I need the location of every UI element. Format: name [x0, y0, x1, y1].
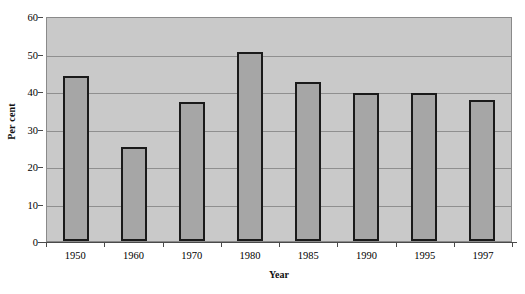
bar: [63, 76, 89, 241]
x-axis-tick-label: 1970: [163, 250, 221, 261]
x-tick-slot: [454, 242, 512, 248]
bar: [469, 100, 495, 241]
y-axis-tick-label: 10: [0, 199, 42, 210]
x-axis-tickmark: [512, 242, 513, 247]
x-axis-tick-label: 1985: [279, 250, 337, 261]
bar-slot: [337, 18, 395, 241]
y-axis-tickmark: [38, 205, 43, 206]
x-axis-tick-label: 1960: [104, 250, 162, 261]
bar: [179, 102, 205, 241]
x-axis-tickmark: [337, 242, 338, 247]
bar-series: [47, 18, 511, 241]
x-axis-tickmark: [454, 242, 455, 247]
y-axis-tickmark: [38, 92, 43, 93]
bar-slot: [221, 18, 279, 241]
x-axis-tickmarks: [46, 242, 512, 248]
y-axis-tick-label: 40: [0, 87, 42, 98]
x-tick-slot: [46, 242, 104, 248]
plot-area: [46, 17, 512, 242]
y-axis-tick-label: 20: [0, 162, 42, 173]
x-tick-slot: [337, 242, 395, 248]
x-tick-slot: [396, 242, 454, 248]
bar: [121, 147, 147, 241]
bar-slot: [47, 18, 105, 241]
y-axis-tickmark: [38, 167, 43, 168]
x-axis-tick-label: 1980: [221, 250, 279, 261]
bar: [353, 93, 379, 241]
x-axis-tickmark: [396, 242, 397, 247]
bar-slot: [279, 18, 337, 241]
x-axis-tick-label: 1997: [454, 250, 512, 261]
x-tick-slot: [163, 242, 221, 248]
y-axis-tickmark: [38, 130, 43, 131]
bar: [411, 93, 437, 241]
x-tick-slot: [104, 242, 162, 248]
bar-slot: [163, 18, 221, 241]
x-axis-title: Year: [46, 269, 512, 280]
x-axis-tickmark: [279, 242, 280, 247]
x-axis-tick-label: 1995: [396, 250, 454, 261]
bar-chart: Per cent 0102030405060 19501960197019801…: [0, 0, 525, 294]
y-axis-tick-label: 60: [0, 12, 42, 23]
bar-slot: [453, 18, 511, 241]
x-axis-tickmark: [221, 242, 222, 247]
bar-slot: [105, 18, 163, 241]
x-tick-slot: [221, 242, 279, 248]
bar: [295, 82, 321, 241]
x-axis-tick-label: 1990: [337, 250, 395, 261]
x-axis-tickmark: [104, 242, 105, 247]
x-tick-slot: [279, 242, 337, 248]
y-axis-tickmark: [38, 55, 43, 56]
x-axis-tick-labels: 19501960197019801985199019951997: [46, 250, 512, 261]
y-axis-tick-label: 30: [0, 124, 42, 135]
bar-slot: [395, 18, 453, 241]
y-axis-tickmark: [38, 17, 43, 18]
x-axis-tickmark: [46, 242, 47, 247]
y-axis-tick-label: 50: [0, 49, 42, 60]
y-axis-tick-labels: 0102030405060: [0, 0, 42, 294]
x-axis-tick-label: 1950: [46, 250, 104, 261]
bar: [237, 52, 263, 241]
y-axis-tick-label: 0: [0, 237, 42, 248]
x-axis-tickmark: [163, 242, 164, 247]
